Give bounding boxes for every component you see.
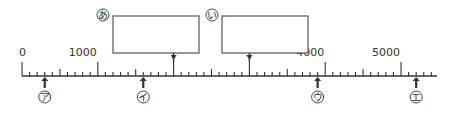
tick-label: 1000 [69,46,97,59]
down-arrow-icon [171,55,177,60]
answer-box-i[interactable]: い [206,9,308,62]
marker-label: イ [138,92,148,103]
marker-label: ウ [313,92,323,103]
marker-1: ア [39,77,51,103]
up-arrow-icon [413,77,420,81]
tick-label: 5000 [372,46,400,59]
marker-4: エ [410,77,422,103]
up-arrow-icon [41,77,48,81]
answer-box-a[interactable]: あ [97,9,199,62]
marker-label: エ [411,92,421,103]
marker-2: イ [137,77,149,103]
marker-label: ア [40,92,50,103]
down-arrow-icon [246,55,252,60]
up-arrow-icon [140,77,147,81]
marker-3: ウ [312,77,324,103]
number-line-diagram: 0100040005000あいアイウエ [0,0,450,115]
box-label: い [207,10,217,21]
box-label: あ [98,10,108,21]
up-arrow-icon [314,77,321,81]
tick-label: 0 [19,46,26,59]
number-line-axis [22,62,437,76]
